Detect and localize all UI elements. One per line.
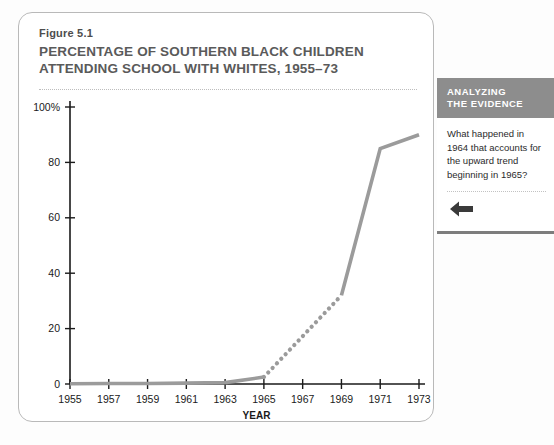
y-tick-label: 60 [48, 211, 60, 223]
x-axis-title: YEAR [243, 410, 272, 421]
x-tick-label: 1971 [369, 393, 393, 405]
analyzing-the-evidence-box: ANALYZING THE EVIDENCE What happened in … [437, 78, 554, 234]
y-tick-label: 0 [54, 378, 60, 390]
page-background: Figure 5.1 PERCENTAGE OF SOUTHERN BLACK … [0, 0, 554, 445]
x-tick-label: 1963 [213, 393, 237, 405]
data-series-1 [264, 295, 342, 377]
x-tick-label: 1959 [136, 393, 160, 405]
line-chart-svg: 020406080100%195519571959196119631965196… [19, 13, 435, 423]
y-tick-label: 20 [48, 322, 60, 334]
sidebar-question-text: What happened in 1964 that accounts for … [437, 118, 554, 187]
figure-card: Figure 5.1 PERCENTAGE OF SOUTHERN BLACK … [18, 12, 434, 422]
x-tick-label: 1967 [291, 393, 315, 405]
data-series-0 [70, 377, 264, 384]
arrow-left-glyph [449, 200, 475, 218]
sidebar-heading: ANALYZING THE EVIDENCE [437, 78, 554, 118]
x-tick-label: 1961 [175, 393, 199, 405]
sidebar-heading-line1: ANALYZING [447, 86, 545, 98]
sidebar-heading-line2: THE EVIDENCE [447, 98, 545, 110]
x-tick-label: 1957 [97, 393, 121, 405]
x-tick-label: 1965 [252, 393, 276, 405]
x-tick-label: 1973 [407, 393, 431, 405]
y-tick-label: 80 [48, 156, 60, 168]
data-series-2 [341, 135, 419, 296]
y-tick-label: 100% [33, 101, 60, 113]
x-tick-label: 1955 [58, 393, 82, 405]
y-tick-label: 40 [48, 267, 60, 279]
chart-plot-area: 020406080100%195519571959196119631965196… [19, 13, 435, 423]
arrow-left-icon[interactable] [437, 193, 554, 222]
x-tick-label: 1969 [330, 393, 354, 405]
